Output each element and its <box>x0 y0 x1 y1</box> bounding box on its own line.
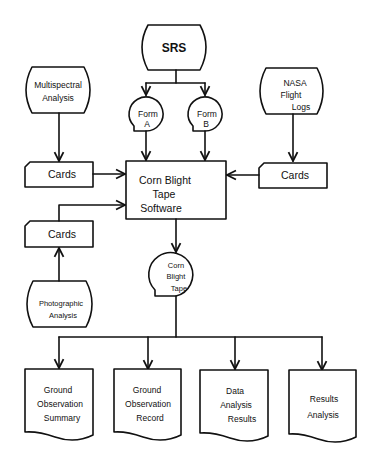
output-bus <box>59 296 322 370</box>
tape-label-line1: Corn <box>168 261 184 270</box>
software-label-line2: Tape <box>153 188 176 200</box>
nasa-label-line3: Logs <box>292 102 310 112</box>
software-node: Corn Blight Tape Software <box>126 161 226 219</box>
cards-right-label: Cards <box>281 169 309 181</box>
nasa-node: NASA Flight Logs <box>260 68 323 114</box>
multispectral-label-line2: Analysis <box>42 93 74 103</box>
form-b-node: Form B <box>188 97 222 131</box>
photographic-node: Photographic Analysis <box>27 281 92 327</box>
doc3-label-line2: Analysis <box>220 400 252 410</box>
doc2-label-line2: Observation <box>125 399 171 409</box>
form-a-node: Form A <box>129 97 163 131</box>
form-a-label-line2: A <box>144 119 150 129</box>
doc-ground-observation-record: Ground Observation Record <box>114 369 181 440</box>
multispectral-label-line1: Multispectral <box>34 80 82 90</box>
cards-left-node: Cards <box>25 162 93 187</box>
doc4-label-line1: Results <box>310 394 338 404</box>
doc-ground-observation-summary: Ground Observation Summary <box>25 369 93 440</box>
doc3-label-line3: Results <box>228 414 256 424</box>
doc-data-analysis-results: Data Analysis Results <box>200 370 268 441</box>
nasa-label-line1: NASA <box>283 78 306 88</box>
tape-label-line3: Tape <box>171 284 187 293</box>
doc2-label-line3: Record <box>136 413 164 423</box>
doc1-label-line1: Ground <box>44 385 73 395</box>
cards-photo-label: Cards <box>48 228 76 240</box>
tape-label-line2: Blight <box>167 272 187 281</box>
tape-node: Corn Blight Tape <box>149 253 193 296</box>
nasa-label-line2: Flight <box>281 90 302 100</box>
cards-photo-node: Cards <box>25 221 93 247</box>
software-label-line1: Corn Blight <box>139 174 191 186</box>
doc1-label-line2: Observation <box>37 399 83 409</box>
form-b-label-line2: B <box>203 119 209 129</box>
doc2-label-line1: Ground <box>133 385 162 395</box>
doc3-label-line1: Data <box>226 386 244 396</box>
photographic-label-line2: Analysis <box>49 311 77 320</box>
flowchart-canvas: SRS Form A Form B Multispectral Analysis… <box>0 0 370 468</box>
srs-connectors <box>146 70 205 95</box>
doc1-label-line3: Summary <box>44 413 81 423</box>
form-a-label-line1: Form <box>138 109 158 119</box>
doc4-label-line2: Analysis <box>307 410 339 420</box>
srs-node: SRS <box>142 25 206 70</box>
software-label-line3: Software <box>140 202 182 214</box>
srs-label: SRS <box>162 41 187 55</box>
form-b-label-line1: Form <box>197 109 217 119</box>
cards-left-label: Cards <box>48 168 76 180</box>
doc-results-analysis: Results Analysis <box>289 370 356 442</box>
cards-photo-arrow <box>59 205 125 221</box>
cards-right-node: Cards <box>259 163 327 188</box>
photographic-label-line1: Photographic <box>39 299 83 308</box>
multispectral-node: Multispectral Analysis <box>26 67 90 113</box>
